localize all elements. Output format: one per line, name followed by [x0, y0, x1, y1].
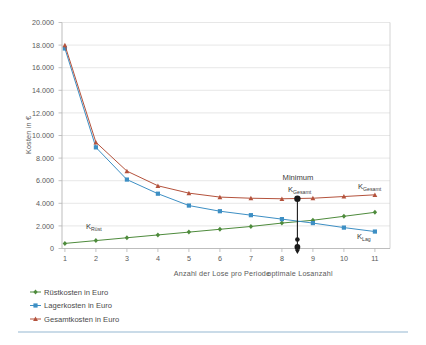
chart-figure: 20.000 18.000 16.000 14.000 12.000 10.00… [0, 0, 426, 345]
y-tick-label: 16.000 [32, 63, 54, 72]
k-ruest-sub: Rüst [91, 226, 102, 232]
data-point-lagerkosten [156, 192, 160, 196]
x-tick-label: 10 [340, 254, 348, 263]
legend-label-gesamtkosten: Gesamtkosten in Euro [44, 315, 119, 324]
y-tick-label: 8.000 [36, 154, 54, 163]
x-tick-label: 8 [280, 254, 284, 263]
data-point-lagerkosten [311, 221, 315, 225]
y-tick-label: 20.000 [32, 18, 54, 27]
data-point-lagerkosten [187, 203, 191, 207]
x-tick-label: 5 [187, 254, 191, 263]
annotation-minimum: Minimum [283, 173, 314, 182]
x-tick-label: 4 [156, 254, 160, 263]
x-tick-label: 9 [311, 254, 315, 263]
k-gesamt-min-sub: Gesamt [293, 189, 312, 195]
chart-legend: Rüstkosten in EuroLagerkosten in EuroGes… [30, 288, 119, 324]
data-point-legend-lagerkosten [33, 303, 37, 307]
y-tick-label: 14.000 [32, 86, 54, 95]
y-tick-label: 6.000 [36, 176, 54, 185]
y-tick-label: 10.000 [32, 131, 54, 140]
x-axis-title: Anzahl der Lose pro Periode [174, 269, 271, 278]
annotation-optimale-losanzahl: optimale Losanzahl [267, 269, 333, 278]
y-tick-label: 4.000 [36, 199, 54, 208]
y-tick-label: 18.000 [32, 41, 54, 50]
data-point-lagerkosten [94, 145, 98, 149]
k-gesamt-right-sub: Gesamt [363, 186, 382, 192]
legend-item-gesamtkosten[interactable]: Gesamtkosten in Euro [30, 315, 119, 324]
legend-label-ruestkosten: Rüstkosten in Euro [44, 288, 108, 297]
cost-lot-size-chart: 20.000 18.000 16.000 14.000 12.000 10.00… [0, 0, 426, 345]
x-tick-label: 1 [63, 254, 67, 263]
y-axis-title: Kosten in € [24, 116, 33, 154]
minimum-axis-dot-lower [295, 244, 301, 250]
data-point-lagerkosten [218, 209, 222, 213]
y-tick-label: 2.000 [36, 222, 54, 231]
x-tick-label: 6 [218, 254, 222, 263]
x-tick-label: 2 [94, 254, 98, 263]
minimum-point-dot [294, 196, 300, 202]
data-point-lagerkosten [125, 177, 129, 181]
x-tick-label: 11 [371, 254, 378, 263]
legend-label-lagerkosten: Lagerkosten in Euro [44, 301, 112, 310]
x-tick-label: 7 [249, 254, 253, 263]
y-tick-label: 0 [50, 244, 54, 253]
minimum-axis-dot-upper [295, 237, 300, 242]
k-lag-sub: Lag [362, 236, 371, 242]
data-point-lagerkosten [280, 217, 284, 221]
data-point-lagerkosten [373, 229, 377, 233]
y-tick-label: 12.000 [32, 109, 54, 118]
data-point-lagerkosten [249, 213, 253, 217]
data-point-lagerkosten [342, 225, 346, 229]
x-tick-label: 3 [125, 254, 129, 263]
